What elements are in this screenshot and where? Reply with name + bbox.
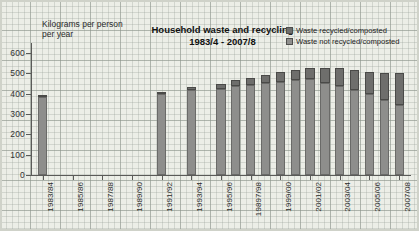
y-axis-unit-line1: Kilograms per person	[42, 19, 142, 29]
bar-segment-not-recycled	[305, 79, 314, 175]
legend-item-recycled: Waste recycled/composted	[286, 25, 400, 36]
bar-2006-07	[380, 73, 389, 175]
legend-item-not-recycled: Waste not recycled/composted	[286, 36, 400, 47]
x-axis-tick-label: 2001/02	[314, 182, 323, 212]
x-axis-tick	[280, 176, 281, 180]
x-axis-tick-label: 1995/96	[225, 182, 234, 212]
y-axis-tick-label: 300	[10, 109, 25, 119]
chart-container: 0100200300400500600 1983/841985/861987/8…	[0, 0, 419, 231]
chart-legend: Waste recycled/composted Waste not recyc…	[286, 25, 400, 47]
bar-segment-not-recycled	[380, 100, 389, 175]
chart-title: Household waste and recycling 1983/4 - 2…	[150, 24, 295, 48]
y-axis-tick-label: 200	[10, 129, 25, 139]
legend-label-not-recycled: Waste not recycled/composted	[296, 36, 400, 47]
bar-segment-not-recycled	[320, 83, 329, 175]
bar-segment-recycled	[276, 72, 285, 81]
x-axis-tick-label: 1991/92	[165, 182, 174, 212]
x-axis-tick	[132, 176, 133, 180]
bar-segment-not-recycled	[216, 89, 225, 175]
bar-segment-not-recycled	[246, 85, 255, 175]
x-axis-tick	[221, 176, 222, 180]
x-axis-tick-label: 1989/90	[135, 182, 144, 212]
bar-segment-recycled	[305, 68, 314, 79]
bar-1995-96	[216, 84, 225, 175]
bar-1983-84	[38, 95, 47, 175]
x-axis-tick	[102, 176, 103, 180]
chart-title-line1: Household waste and recycling	[150, 24, 295, 36]
bar-2007-08	[395, 73, 404, 175]
bar-segment-recycled	[395, 73, 404, 104]
bar-segment-not-recycled	[276, 82, 285, 175]
x-axis-tick	[399, 176, 400, 180]
x-axis-tick-label: 1983/84	[46, 182, 55, 212]
x-axis-tick-label: 2005/06	[373, 182, 382, 212]
bar-segment-recycled	[365, 72, 374, 93]
y-axis-tick	[26, 175, 31, 176]
bar-2004-05	[350, 70, 359, 175]
x-axis-tick-label: 2007/08	[403, 182, 412, 212]
bar-segment-recycled	[261, 75, 270, 83]
bar-1997-98	[246, 78, 255, 175]
x-axis-tick	[340, 176, 341, 180]
x-axis-tick	[162, 176, 163, 180]
bar-segment-recycled	[291, 70, 300, 80]
chart-title-line2: 1983/4 - 2007/8	[150, 36, 295, 48]
bar-1991-92	[157, 92, 166, 175]
bar-segment-recycled	[320, 68, 329, 82]
y-axis-tick-label: 100	[10, 150, 25, 160]
bar-1998-99	[261, 75, 270, 176]
x-axis-tick-label: 1999/00	[284, 182, 293, 212]
x-axis-tick	[310, 176, 311, 180]
x-axis-tick-label: 1993/94	[195, 182, 204, 212]
x-axis-tick-label: 1987/88	[106, 182, 115, 212]
bar-segment-not-recycled	[231, 86, 240, 175]
legend-swatch-not-recycled-icon	[286, 38, 293, 45]
y-axis-tick-label: 500	[10, 68, 25, 78]
x-axis-tick	[43, 176, 44, 180]
legend-swatch-recycled-icon	[286, 27, 293, 34]
x-axis-tick-label: 1985/86	[76, 182, 85, 212]
bar-segment-not-recycled	[335, 86, 344, 175]
bar-2003-04	[335, 68, 344, 175]
bar-1996-97	[231, 80, 240, 175]
bar-segment-not-recycled	[157, 94, 166, 175]
bar-1993-94	[187, 87, 196, 175]
bar-segment-not-recycled	[261, 83, 270, 175]
bar-2000-01	[291, 70, 300, 175]
bar-segment-recycled	[350, 70, 359, 89]
legend-label-recycled: Waste recycled/composted	[296, 25, 387, 36]
bar-2002-03	[320, 68, 329, 175]
bar-segment-recycled	[335, 68, 344, 85]
bar-segment-recycled	[246, 78, 255, 85]
plot-area	[31, 43, 411, 175]
bar-segment-not-recycled	[38, 97, 47, 175]
bar-1999-00	[276, 72, 285, 175]
y-axis-labels: 0100200300400500600	[0, 0, 25, 231]
x-axis-tick	[251, 176, 252, 180]
x-axis-tick	[369, 176, 370, 180]
x-axis-tick-label: 2003/04	[343, 182, 352, 212]
y-axis-unit-line2: per year	[42, 29, 142, 39]
y-axis-tick-label: 600	[10, 48, 25, 58]
bar-segment-recycled	[380, 73, 389, 99]
y-axis-tick-label: 400	[10, 89, 25, 99]
x-axis-tick	[191, 176, 192, 180]
bar-segment-not-recycled	[365, 94, 374, 175]
x-axis-tick-label: 19897/98	[254, 182, 263, 216]
x-axis-tick	[73, 176, 74, 180]
bar-2005-06	[365, 72, 374, 175]
bar-2001-02	[305, 68, 314, 175]
bar-segment-not-recycled	[395, 105, 404, 175]
y-axis-unit-note: Kilograms per person per year	[42, 19, 142, 39]
y-axis-tick-label: 0	[20, 170, 25, 180]
bar-segment-not-recycled	[291, 80, 300, 175]
bar-segment-not-recycled	[350, 90, 359, 175]
bar-segment-not-recycled	[187, 90, 196, 175]
